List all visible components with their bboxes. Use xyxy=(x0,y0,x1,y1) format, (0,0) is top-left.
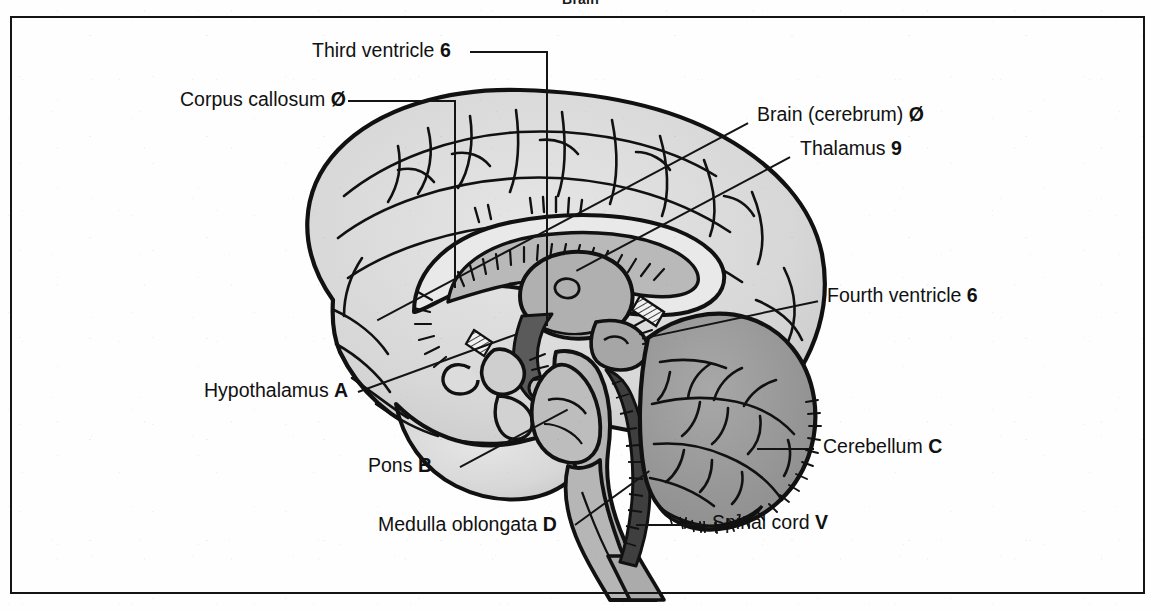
figure-frame xyxy=(10,16,1145,594)
figure-page: Brain xyxy=(0,0,1161,611)
